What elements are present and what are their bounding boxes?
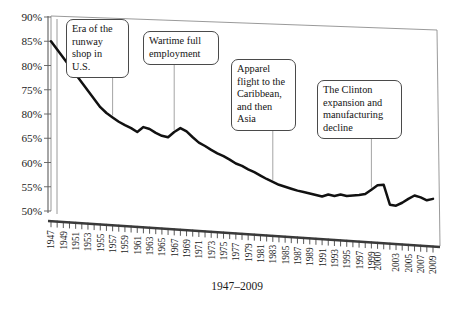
- x-axis-tick-label: 1995: [342, 249, 352, 268]
- y-axis-tick-label: 55%: [21, 181, 42, 193]
- x-axis-tick-label: 1973: [207, 240, 217, 259]
- x-axis-tick-label: 1977: [231, 242, 241, 261]
- x-axis-tick-label: 1991: [318, 248, 328, 267]
- x-axis-tick-label: 1985: [281, 245, 291, 264]
- x-axis-tick-label: 1963: [145, 236, 155, 255]
- x-axis-tick-label: 2003: [391, 253, 401, 272]
- chart-subtitle: 1947–2009: [211, 280, 263, 292]
- y-axis-tick-label: 80%: [21, 108, 42, 120]
- x-axis-tick-label: 1975: [219, 241, 229, 260]
- x-axis-tick-label: 1959: [120, 235, 130, 254]
- x-axis-tick-label: 1953: [83, 232, 93, 251]
- chart-container: 90%85%80%75%80%65%60%55%50% 194719491951…: [0, 0, 451, 310]
- y-axis-tick-label: 85%: [21, 35, 42, 47]
- y-axis: 90%85%80%75%80%65%60%55%50%: [21, 11, 51, 217]
- y-axis-tick-label: 80%: [21, 60, 42, 72]
- x-axis-tick-label: 1949: [59, 231, 69, 250]
- y-axis-tick-label: 65%: [21, 132, 42, 144]
- x-axis-tick-label: 2000: [373, 252, 383, 271]
- annotation-wartime-employment: Wartime full employment: [143, 31, 219, 65]
- annotation-clinton-expansion: The Clinton expansion and manufacturing …: [317, 80, 402, 139]
- x-axis-tick-label: 1947: [46, 230, 56, 249]
- frame-right-edge: [437, 30, 440, 246]
- x-axis-tick-label: 1997: [355, 250, 365, 269]
- x-axis-tick-label: 2007: [416, 254, 426, 273]
- x-axis: 1947194919511953195519571959196119631965…: [46, 220, 440, 274]
- x-axis-tick-label: 1955: [96, 233, 106, 252]
- y-axis-tick-label: 50%: [21, 205, 42, 217]
- x-axis-tick-label: 1981: [256, 244, 266, 263]
- y-axis-tick-labels: 90%85%80%75%80%65%60%55%50%: [21, 11, 42, 217]
- x-axis-tick-label: 1961: [133, 236, 143, 255]
- x-axis-tick-label: 1983: [268, 245, 278, 264]
- x-axis-tick-label: 1957: [108, 234, 118, 253]
- x-axis-tick-label: 2009: [428, 255, 438, 274]
- x-axis-tick-label: 1965: [157, 237, 167, 256]
- x-axis-tick-label: 1989: [305, 247, 315, 266]
- x-axis-tick-label: 1951: [71, 231, 81, 250]
- x-axis-tick-label: 1971: [194, 240, 204, 259]
- y-axis-tick-label: 90%: [21, 11, 42, 23]
- x-axis-tick-label: 1979: [244, 243, 254, 262]
- x-axis-tick-label: 1987: [293, 246, 303, 265]
- annotation-apparel-flight: Apparel flight to the Caribbean, and the…: [231, 59, 296, 131]
- y-axis-tick-label: 75%: [21, 84, 42, 96]
- x-axis-tick-label: 1993: [330, 249, 340, 268]
- x-axis-tick-label: 1969: [182, 239, 192, 258]
- annotation-runway-shop: Era of the runway shop in U.S.: [66, 19, 129, 78]
- y-axis-tick-label: 60%: [21, 157, 42, 169]
- x-axis-tick-label: 2005: [404, 254, 414, 273]
- x-axis-tick-label: 1967: [170, 238, 180, 257]
